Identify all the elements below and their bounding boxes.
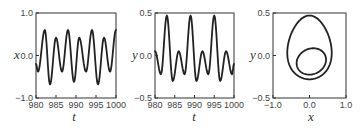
y-axis-label: x <box>13 47 20 62</box>
plot-frame <box>273 13 346 98</box>
panel-y-vs-t: 9809859909951000−0.50.00.5 y t <box>130 8 244 124</box>
panel-x-vs-t: 9809859909951000−1.00.01.0 x t <box>13 8 126 124</box>
y-tick-label: 1.0 <box>20 8 33 18</box>
x-axis-label: t <box>192 109 196 124</box>
x-tick-label: 1000 <box>224 100 244 110</box>
x-tick-label: 985 <box>48 100 63 110</box>
y-tick-label: 0.0 <box>20 51 33 61</box>
y-time-series-line <box>155 16 234 81</box>
x-axis-label: x <box>307 109 314 124</box>
y-tick-label: −1.0 <box>15 93 33 103</box>
x-tick-label: 990 <box>68 100 83 110</box>
y-axis-label: y <box>130 47 138 62</box>
x-tick-label: 1000 <box>106 100 126 110</box>
figure: 9809859909951000−1.00.01.0 x t 980985990… <box>0 0 361 132</box>
y-tick-label: 0.0 <box>139 51 152 61</box>
x-time-series-line <box>36 30 116 84</box>
y-axis-label: y <box>248 47 256 62</box>
axis-ticks: −1.00.01.0−0.50.00.5 <box>252 8 352 110</box>
panel-phase-portrait: −1.00.01.0−0.50.00.5 y x <box>248 8 352 124</box>
x-tick-label: 995 <box>88 100 103 110</box>
phase-portrait-line <box>287 16 331 80</box>
y-tick-label: 0.0 <box>257 51 270 61</box>
x-tick-label: 995 <box>207 100 222 110</box>
y-tick-label: −0.5 <box>252 93 270 103</box>
x-tick-label: 985 <box>167 100 182 110</box>
y-tick-label: 0.5 <box>139 8 152 18</box>
x-axis-label: t <box>72 109 76 124</box>
y-tick-label: −0.5 <box>134 93 152 103</box>
y-tick-label: 0.5 <box>257 8 270 18</box>
x-tick-label: 1.0 <box>340 100 353 110</box>
